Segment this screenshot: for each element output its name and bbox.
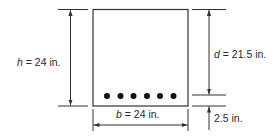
rebar	[157, 93, 163, 99]
d-value: = 21.5 in.	[220, 48, 266, 60]
b-value: = 24 in.	[122, 108, 160, 120]
reinforcing-bars	[104, 93, 177, 99]
rebar	[131, 93, 137, 99]
beam-cross-section	[93, 10, 188, 107]
rebar	[104, 93, 110, 99]
effective-depth-label: d = 21.5 in.	[214, 48, 266, 60]
h-value: = 24 in.	[23, 56, 61, 68]
width-label: b = 24 in.	[116, 108, 160, 120]
height-dimension	[58, 10, 88, 107]
cover-label: 2.5 in.	[214, 112, 243, 124]
height-label: h = 24 in.	[17, 56, 61, 68]
rebar	[118, 93, 124, 99]
rebar	[144, 93, 150, 99]
rebar	[171, 93, 177, 99]
beam-section-diagram: h = 24 in. d = 21.5 in. 2.5 in. b = 24 i…	[0, 0, 276, 138]
